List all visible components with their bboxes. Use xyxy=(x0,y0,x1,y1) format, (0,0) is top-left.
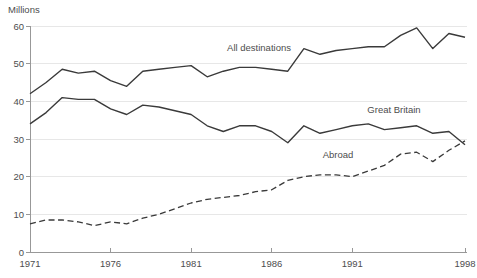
axis-tick-labels: 0102030405060197119761981198619911998 xyxy=(13,21,475,270)
series-label-abroad: Abroad xyxy=(323,149,354,160)
y-tick-label-0: 0 xyxy=(19,247,24,258)
y-tick-label-20: 20 xyxy=(13,171,24,182)
gridlines xyxy=(30,26,467,214)
series-label-all-destinations: All destinations xyxy=(227,42,291,53)
x-tick-label-1971: 1971 xyxy=(19,258,40,269)
y-tick-label-60: 60 xyxy=(13,21,24,32)
y-tick-label-10: 10 xyxy=(13,209,24,220)
series-line-abroad xyxy=(30,141,465,226)
y-axis-unit-label: Millions xyxy=(8,4,40,15)
x-tick-label-1981: 1981 xyxy=(181,258,202,269)
y-tick-label-50: 50 xyxy=(13,58,24,69)
y-tick-label-30: 30 xyxy=(13,134,24,145)
y-tick-label-40: 40 xyxy=(13,96,24,107)
x-tick-label-1991: 1991 xyxy=(342,258,363,269)
series-label-great-britain: Great Britain xyxy=(367,104,420,115)
holidays-line-chart: Millions All destinationsGreat BritainAb… xyxy=(0,0,477,278)
chart-canvas: Millions All destinationsGreat BritainAb… xyxy=(0,0,477,278)
x-tick-label-1976: 1976 xyxy=(100,258,121,269)
series-lines xyxy=(30,28,465,226)
x-tick-label-1998: 1998 xyxy=(454,258,475,269)
x-tick-label-1986: 1986 xyxy=(261,258,282,269)
series-line-all-destinations xyxy=(30,28,465,94)
